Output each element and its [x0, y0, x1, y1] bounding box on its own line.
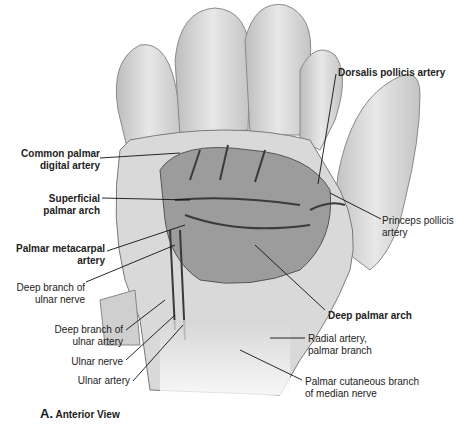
label-deep-palmar-arch: Deep palmar arch — [328, 310, 412, 322]
label-ulnar-nerve: Ulnar nerve — [55, 356, 123, 368]
label-common-palmar-digital-artery: Common palmar digital artery — [20, 148, 100, 172]
label-palmar-cutaneous-branch-median-nerve: Palmar cutaneous branch of median nerve — [305, 376, 419, 400]
label-deep-branch-ulnar-nerve: Deep branch of ulnar nerve — [10, 282, 85, 306]
label-dorsalis-pollicis-artery: Dorsalis pollicis artery — [338, 67, 445, 79]
label-princeps-pollicis-artery: Princeps pollicis artery — [382, 215, 454, 239]
label-deep-branch-ulnar-artery: Deep branch of ulnar artery — [45, 324, 123, 348]
label-palmar-metacarpal-artery: Palmar metacarpal artery — [10, 243, 105, 267]
figure-caption: A. Anterior View — [40, 406, 120, 421]
label-radial-artery-palmar-branch: Radial artery, palmar branch — [308, 333, 372, 357]
label-ulnar-artery: Ulnar artery — [55, 375, 130, 387]
caption-letter: A. — [40, 406, 53, 421]
caption-text: Anterior View — [55, 409, 119, 420]
label-superficial-palmar-arch: Superficial palmar arch — [30, 193, 100, 217]
